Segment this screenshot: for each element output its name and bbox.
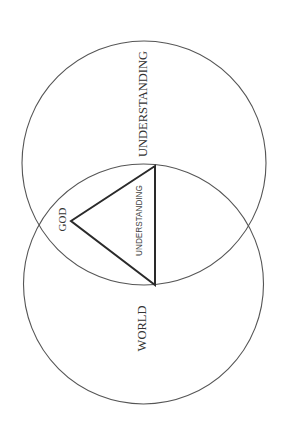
triangle-label: UNDERSTANDING <box>135 185 144 256</box>
venn-diagram: UNDERSTANDING WORLD UNDERSTANDING GOD <box>0 0 283 434</box>
god-label: GOD <box>56 208 68 232</box>
world-circle-label: WORLD <box>135 306 149 352</box>
understanding-circle-label: UNDERSTANDING <box>136 51 150 157</box>
